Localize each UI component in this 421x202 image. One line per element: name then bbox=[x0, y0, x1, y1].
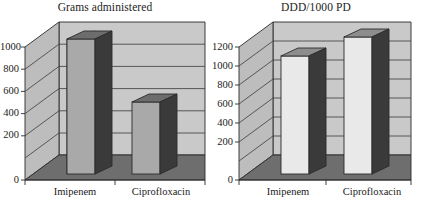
ytick-right-0: 0 bbox=[211, 174, 233, 185]
x-axis-left bbox=[25, 180, 205, 185]
chart-panel-grams-administered: Grams administered bbox=[0, 0, 210, 202]
bar-left-imipenem bbox=[67, 31, 112, 174]
xtick-right-ciprofloxacin: Ciprofloxacin bbox=[325, 186, 419, 198]
xtick-left-ciprofloxacin: Ciprofloxacin bbox=[114, 186, 208, 198]
ytick-right-200: 200 bbox=[211, 136, 233, 147]
bar-right-imipenem bbox=[281, 48, 326, 174]
xtick-right-imipenem: Imipenem bbox=[247, 186, 329, 198]
bar-right-ciprofloxacin bbox=[344, 29, 389, 174]
plot-area-left: 1000 800 600 400 200 0 Imipenem Ciproflo… bbox=[0, 0, 210, 202]
ytick-right-400: 400 bbox=[211, 117, 233, 128]
bar-left-ciprofloxacin bbox=[132, 94, 177, 174]
ytick-left-0: 0 bbox=[0, 174, 19, 185]
dual-bar-chart-figure: Grams administered bbox=[0, 0, 421, 202]
ytick-right-600: 600 bbox=[211, 98, 233, 109]
ytick-left-1000: 1000 bbox=[0, 41, 19, 52]
x-axis-right bbox=[239, 180, 411, 185]
ytick-left-600: 600 bbox=[0, 85, 19, 96]
ytick-left-200: 200 bbox=[0, 129, 19, 140]
axis-ticks-left bbox=[21, 47, 25, 180]
side-wall-right bbox=[239, 22, 273, 180]
chart-panel-ddd-per-1000-pd: DDD/1000 PD bbox=[211, 0, 421, 202]
ytick-right-1000: 1000 bbox=[211, 60, 233, 71]
xtick-left-imipenem: Imipenem bbox=[34, 186, 116, 198]
ytick-left-800: 800 bbox=[0, 63, 19, 74]
ytick-right-800: 800 bbox=[211, 79, 233, 90]
axis-ticks-right bbox=[235, 47, 239, 180]
chart-svg-left bbox=[0, 0, 210, 202]
ytick-left-400: 400 bbox=[0, 107, 19, 118]
ytick-right-1200: 1200 bbox=[211, 41, 233, 52]
plot-area-right: 1200 1000 800 600 400 200 0 Imipenem Cip… bbox=[211, 0, 421, 202]
chart-svg-right bbox=[211, 0, 421, 202]
